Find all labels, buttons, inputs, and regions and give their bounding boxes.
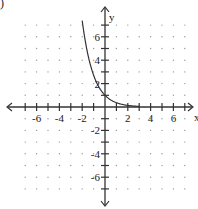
x-axis-label: x	[194, 111, 198, 123]
y-axis-label: y	[109, 11, 115, 23]
x-tick-label: -6	[32, 112, 42, 124]
y-tick-label: 6	[95, 31, 101, 43]
y-tick-label: -2	[91, 124, 100, 136]
function-curve	[82, 21, 139, 107]
y-tick-label: -6	[91, 171, 101, 183]
graph: -6-4-2246642-2-4-6 x y	[0, 0, 198, 209]
x-tick-label: -2	[78, 112, 87, 124]
axes	[7, 7, 193, 206]
y-tick-label: -4	[91, 148, 101, 160]
x-tick-label: 6	[171, 112, 177, 124]
x-tick-label: 4	[148, 112, 154, 124]
y-tick-label: 4	[95, 54, 101, 66]
x-tick-label: -4	[55, 112, 65, 124]
x-tick-label: 2	[125, 112, 131, 124]
